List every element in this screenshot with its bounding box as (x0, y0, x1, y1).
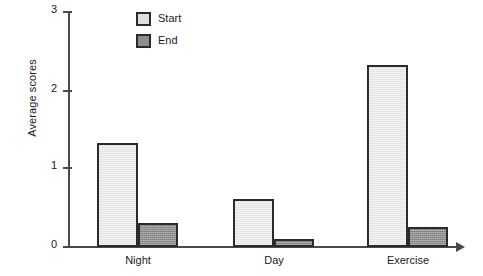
bar-day-end (274, 239, 314, 247)
bar-night-start (97, 143, 138, 247)
x-axis-category-exercise: Exercise (358, 254, 458, 266)
y-axis-tick-1: 1 (63, 167, 72, 169)
bar-chart: Average scores 3 2 1 0 Night Day Exercis… (0, 0, 483, 276)
bar-exercise-end (408, 227, 448, 247)
bar-night-end (138, 223, 178, 247)
legend-item-start: Start (136, 10, 181, 27)
legend: Start End (136, 10, 181, 54)
legend-swatch-start-icon (136, 12, 151, 26)
legend-swatch-end-icon (136, 34, 151, 48)
legend-label-end: End (158, 35, 178, 46)
legend-item-end: End (136, 32, 181, 49)
y-axis-tick-0: 0 (63, 246, 72, 248)
y-axis-tick-3: 3 (63, 11, 72, 13)
x-axis-arrow-icon (456, 242, 465, 252)
legend-label-start: Start (158, 13, 181, 24)
y-axis-tick-label-3: 3 (51, 3, 57, 15)
x-axis-category-night: Night (88, 254, 188, 266)
y-axis-label: Average scores (26, 28, 38, 168)
y-axis-line (68, 12, 70, 248)
bar-exercise-start (367, 65, 408, 247)
bar-day-start (233, 199, 274, 247)
y-axis-tick-label-1: 1 (51, 159, 57, 171)
x-axis-category-day: Day (224, 254, 324, 266)
y-axis-tick-label-2: 2 (51, 82, 57, 94)
y-axis-tick-label-0: 0 (51, 238, 57, 250)
y-axis-tick-2: 2 (63, 90, 72, 92)
